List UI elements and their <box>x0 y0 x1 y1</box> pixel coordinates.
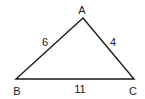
side-label-bc: 11 <box>74 84 85 95</box>
triangle-figure <box>0 0 145 99</box>
vertex-label-c: C <box>129 86 137 97</box>
vertex-label-a: A <box>78 5 85 16</box>
side-label-ab: 6 <box>42 37 48 48</box>
side-label-ac: 4 <box>110 37 116 48</box>
triangle-abc <box>16 18 134 79</box>
vertex-label-b: B <box>13 86 20 97</box>
